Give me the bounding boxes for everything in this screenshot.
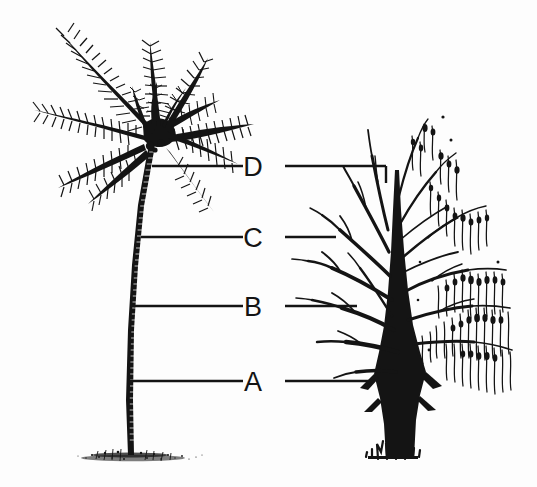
label-a: A <box>244 367 262 397</box>
label-d: D <box>243 152 263 182</box>
figure-root: D C B A <box>0 0 537 487</box>
label-c: C <box>243 223 263 253</box>
tree-comparison-diagram: D C B A <box>0 0 537 487</box>
label-b: B <box>244 292 262 322</box>
figure-background <box>0 0 537 487</box>
